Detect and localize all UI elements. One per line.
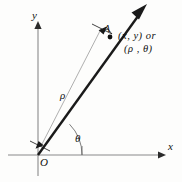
rho-label: ρ <box>60 90 65 101</box>
rho-dimension-line-group <box>30 24 112 151</box>
diagram-canvas <box>0 0 182 182</box>
coordinates-annotation: (x, y) or (ρ , θ) <box>118 31 156 57</box>
rho-dimension-line <box>41 29 101 146</box>
theta-label: θ <box>75 133 80 144</box>
polar-coordinates-label: (ρ , θ) <box>118 44 156 57</box>
x-axis-arrowhead <box>158 151 166 158</box>
y-axis-arrowhead <box>34 21 41 29</box>
polar-coordinate-diagram: y x O ρ θ A (x, y) or (ρ , θ) <box>0 0 182 182</box>
radial-ray-arrowhead <box>132 4 148 20</box>
origin-label: O <box>40 157 48 168</box>
y-axis-label: y <box>32 10 37 21</box>
point-a-marker <box>108 35 113 40</box>
radial-ray-group <box>38 4 147 155</box>
x-axis-label: x <box>168 141 173 152</box>
point-a-label: A <box>104 24 110 34</box>
